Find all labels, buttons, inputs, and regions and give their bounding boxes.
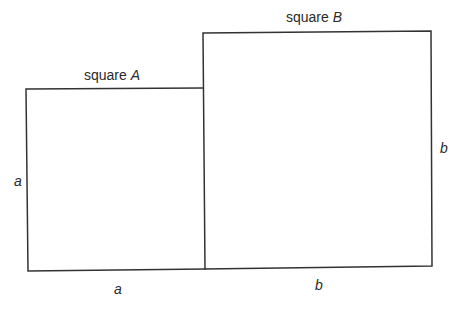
square-a-title: square A — [84, 67, 140, 83]
square-b-outline — [203, 31, 432, 269]
square-a-outline — [26, 88, 205, 271]
side-label-b-right: b — [440, 140, 448, 156]
square-b-title-var: B — [333, 9, 342, 25]
square-b-title: square B — [286, 9, 342, 25]
side-label-a-bottom: a — [114, 281, 122, 297]
square-a — [26, 88, 205, 271]
square-b — [203, 31, 432, 269]
square-a-title-var: A — [130, 67, 140, 83]
square-b-title-prefix: square — [286, 9, 333, 25]
side-label-b-bottom: b — [315, 277, 323, 293]
square-a-title-prefix: square — [84, 67, 131, 83]
side-label-a-left: a — [14, 173, 22, 189]
two-squares-diagram: square A square B a a b b — [0, 0, 463, 309]
